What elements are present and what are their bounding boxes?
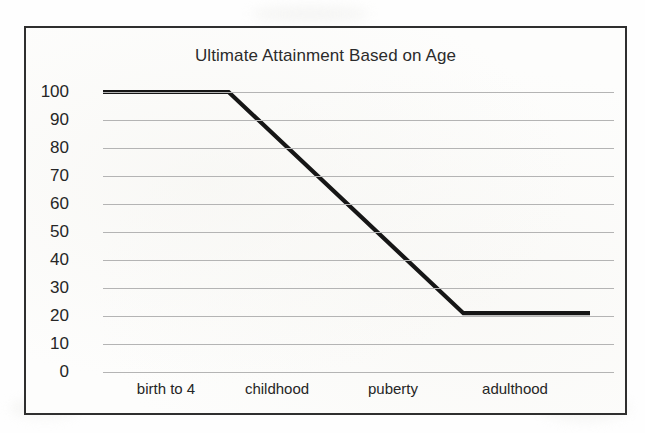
y-axis-tick-label: 30 xyxy=(23,279,69,296)
gridline-100 xyxy=(103,92,614,93)
x-axis-category-label: birth to 4 xyxy=(106,380,226,397)
y-axis-tick-label: 70 xyxy=(23,167,69,184)
gridline-30 xyxy=(103,288,614,289)
gridline-80 xyxy=(103,148,614,149)
plot-area: 1009080706050403020100birth to 4childhoo… xyxy=(26,28,625,413)
gridline-70 xyxy=(103,176,614,177)
gridline-40 xyxy=(103,260,614,261)
y-axis-tick-label: 20 xyxy=(23,307,69,324)
gridline-60 xyxy=(103,204,614,205)
scan-artifact xyxy=(250,6,370,22)
y-axis-tick-label: 60 xyxy=(23,195,69,212)
y-axis-tick-label: 10 xyxy=(23,335,69,352)
x-axis-category-label: puberty xyxy=(333,380,453,397)
x-axis-category-label: childhood xyxy=(217,380,337,397)
y-axis-tick-label: 0 xyxy=(23,363,69,380)
y-axis-tick-label: 80 xyxy=(23,139,69,156)
y-axis-tick-label: 90 xyxy=(23,111,69,128)
chart-screenshot: Ultimate Attainment Based on Age 1009080… xyxy=(0,0,645,433)
data-series-line xyxy=(26,28,625,413)
gridline-90 xyxy=(103,120,614,121)
gridline-0 xyxy=(103,372,614,373)
gridline-50 xyxy=(103,232,614,233)
chart-frame: Ultimate Attainment Based on Age 1009080… xyxy=(24,26,627,415)
y-axis-tick-label: 40 xyxy=(23,251,69,268)
gridline-10 xyxy=(103,344,614,345)
y-axis-tick-label: 100 xyxy=(23,83,69,100)
x-axis-category-label: adulthood xyxy=(455,380,575,397)
y-axis-tick-label: 50 xyxy=(23,223,69,240)
gridline-20 xyxy=(103,316,614,317)
